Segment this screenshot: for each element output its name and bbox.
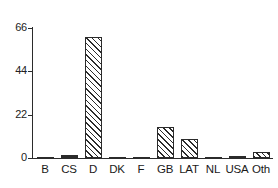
y-tick-label: 22 (15, 109, 27, 120)
bar-oth (253, 152, 270, 158)
bar-cs (61, 155, 78, 158)
bar-b (37, 157, 54, 159)
bar-chart: 0224466 BCSDDKFGBLATNLUSAOth (0, 0, 278, 188)
y-tick-label: 44 (15, 65, 27, 76)
x-axis-line (32, 158, 273, 159)
bar-usa (229, 156, 246, 158)
bar-lat (181, 139, 198, 158)
x-tick-label-oth: Oth (243, 162, 278, 176)
y-tick-mark (28, 158, 33, 159)
bar-gb (157, 127, 174, 158)
bar-d (85, 37, 102, 158)
plot-area (33, 26, 273, 158)
bar-f (133, 157, 150, 159)
bar-dk (109, 157, 126, 159)
bar-nl (205, 157, 222, 159)
x-axis-labels: BCSDDKFGBLATNLUSAOth (33, 162, 273, 178)
y-tick-label: 66 (15, 22, 27, 33)
